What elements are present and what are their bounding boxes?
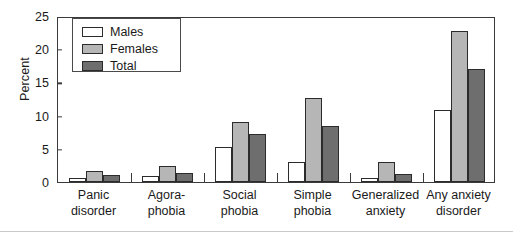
bar-females xyxy=(451,31,468,182)
x-category-label: Simplephobia xyxy=(276,188,349,219)
x-category-label-line: Agora- xyxy=(130,188,203,204)
y-tick-label: 5 xyxy=(25,144,49,157)
bar-females xyxy=(232,122,249,182)
legend-swatch-males xyxy=(82,27,103,37)
x-category-label: Panicdisorder xyxy=(57,188,130,219)
y-tick-mark xyxy=(57,50,62,51)
bar-total xyxy=(322,126,339,182)
bar-males xyxy=(288,162,305,182)
legend-item-total: Total xyxy=(82,58,180,74)
x-category-label-line: Generalized xyxy=(349,188,422,204)
bar-females xyxy=(159,166,176,182)
bar-females xyxy=(305,98,322,182)
bar-males xyxy=(215,147,232,182)
bar-group xyxy=(423,18,496,182)
legend-swatch-females xyxy=(82,44,103,54)
bar-total xyxy=(249,134,266,182)
y-tick-label: 20 xyxy=(25,44,49,57)
legend-label: Females xyxy=(110,43,158,56)
x-category-label: Agora-phobia xyxy=(130,188,203,219)
legend-label: Males xyxy=(110,26,143,39)
x-category-label: Generalizedanxiety xyxy=(349,188,422,219)
bar-group xyxy=(277,18,350,182)
x-category-label: Any anxietydisorder xyxy=(422,188,495,219)
x-category-label-line: phobia xyxy=(276,204,349,220)
chart-legend: MalesFemalesTotal xyxy=(72,18,181,72)
y-tick-mark xyxy=(57,149,62,150)
bar-females xyxy=(86,171,103,182)
bar-total xyxy=(468,69,485,182)
bar-total xyxy=(176,173,193,182)
y-tick-mark xyxy=(57,116,62,117)
legend-item-females: Females xyxy=(82,41,180,57)
legend-swatch-total xyxy=(82,61,103,71)
y-tick-label: 25 xyxy=(25,11,49,24)
bottom-divider xyxy=(0,231,513,232)
legend-label: Total xyxy=(110,60,136,73)
x-category-label-line: Panic xyxy=(57,188,130,204)
x-category-label-line: phobia xyxy=(203,204,276,220)
bar-females xyxy=(378,162,395,182)
bar-males xyxy=(69,178,86,182)
y-tick-label: 15 xyxy=(25,77,49,90)
bar-males xyxy=(361,178,378,182)
x-category-label-line: anxiety xyxy=(349,204,422,220)
x-category-label-line: Any anxiety xyxy=(422,188,495,204)
bar-total xyxy=(395,174,412,182)
bar-chart-figure: Percent 0510152025 PanicdisorderAgora-ph… xyxy=(0,0,513,242)
y-tick-label: 10 xyxy=(25,110,49,123)
bar-group xyxy=(204,18,277,182)
x-category-label-line: Social xyxy=(203,188,276,204)
y-tick-label: 0 xyxy=(25,177,49,190)
x-category-label: Socialphobia xyxy=(203,188,276,219)
y-tick-mark xyxy=(57,83,62,84)
x-category-label-line: disorder xyxy=(422,204,495,220)
bar-males xyxy=(434,110,451,182)
x-category-label-line: Simple xyxy=(276,188,349,204)
bar-males xyxy=(142,176,159,182)
legend-item-males: Males xyxy=(82,24,180,40)
bar-total xyxy=(103,175,120,182)
x-category-label-line: disorder xyxy=(57,204,130,220)
bar-group xyxy=(350,18,423,182)
x-category-label-line: phobia xyxy=(130,204,203,220)
